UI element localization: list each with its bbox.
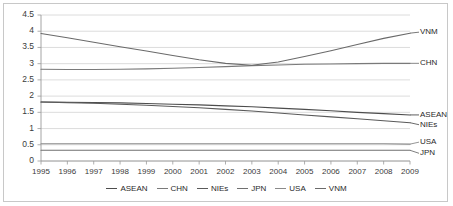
axis-lines: [41, 15, 410, 161]
y-axis-tick-label: 1: [8, 124, 34, 133]
label-leader-lines: [410, 32, 419, 153]
gridlines: [41, 15, 410, 161]
legend-label: VNM: [329, 184, 347, 193]
legend-item-asean[interactable]: ASEAN: [106, 184, 147, 193]
legend-swatch-icon: [315, 188, 326, 189]
series-end-label-chn: CHN: [420, 58, 437, 67]
y-axis-tick-label: 0: [8, 156, 34, 165]
series-end-label-asean: ASEAN: [420, 110, 447, 119]
legend-label: USA: [289, 184, 305, 193]
series-end-label-nies: NIEs: [420, 120, 437, 129]
series-end-label-vnm: VNM: [420, 27, 438, 36]
series-end-label-jpn: JPN: [420, 148, 435, 157]
legend-swatch-icon: [106, 188, 117, 189]
legend-label: CHN: [171, 184, 188, 193]
legend-swatch-icon: [157, 188, 168, 189]
chart-container: 4.543.532.521.510.50 1995199619971998199…: [0, 0, 453, 206]
legend-item-nies[interactable]: NIEs: [197, 184, 228, 193]
chart-legend: ASEANCHNNIEsJPNUSAVNM: [0, 184, 453, 193]
series-end-label-usa: USA: [420, 137, 436, 146]
y-axis-tick-label: 3.5: [8, 42, 34, 51]
y-axis-tick-label: 1.5: [8, 107, 34, 116]
x-axis-tick-label: 2009: [395, 167, 425, 176]
legend-swatch-icon: [275, 188, 286, 189]
y-axis-tick-label: 2.5: [8, 75, 34, 84]
legend-item-vnm[interactable]: VNM: [315, 184, 347, 193]
y-axis-tick-label: 4: [8, 26, 34, 35]
legend-item-jpn[interactable]: JPN: [237, 184, 266, 193]
legend-label: ASEAN: [120, 184, 147, 193]
series-line-chn: [41, 63, 410, 69]
y-axis-tick-label: 3: [8, 59, 34, 68]
legend-swatch-icon: [197, 188, 208, 189]
series-lines: [41, 33, 410, 150]
legend-item-chn[interactable]: CHN: [157, 184, 188, 193]
series-line-vnm: [41, 33, 410, 65]
legend-label: JPN: [251, 184, 266, 193]
y-axis-tick-label: 2: [8, 91, 34, 100]
x-tick-marks: [38, 15, 411, 165]
legend-item-usa[interactable]: USA: [275, 184, 305, 193]
legend-swatch-icon: [237, 188, 248, 189]
legend-label: NIEs: [211, 184, 228, 193]
y-axis-tick-label: 0.5: [8, 140, 34, 149]
y-axis-tick-label: 4.5: [8, 10, 34, 19]
